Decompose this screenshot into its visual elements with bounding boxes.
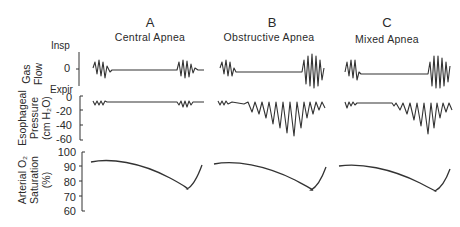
panel-a-o2-curve xyxy=(91,161,202,190)
tracings-plot xyxy=(0,0,460,227)
panel-c-pressure xyxy=(345,102,452,134)
panel-c-gas-flow xyxy=(345,56,450,88)
panel-a-gas-flow xyxy=(93,60,204,78)
panel-b-o2-curve xyxy=(214,163,326,191)
panel-a-pressure xyxy=(93,101,204,107)
panel-b-pressure xyxy=(218,101,325,136)
panel-c-o2-curve xyxy=(339,165,450,191)
panel-b-gas-flow xyxy=(220,54,324,88)
